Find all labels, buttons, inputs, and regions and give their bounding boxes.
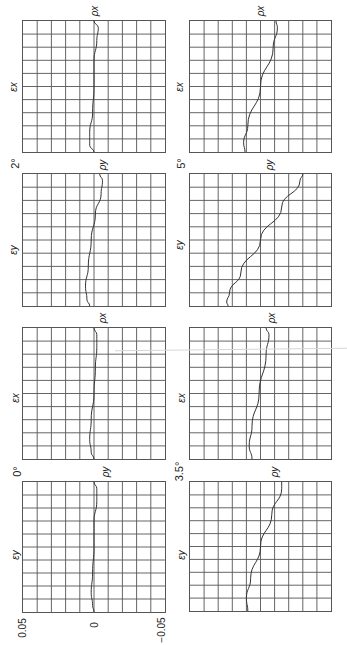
plot-0deg-x	[23, 328, 165, 459]
angle-label-5deg: 5°	[176, 158, 187, 169]
panel-5deg-x	[189, 20, 332, 153]
panel-3.5deg-y	[189, 481, 332, 612]
panel-2deg-x	[22, 20, 166, 153]
end-label: ρx	[90, 6, 100, 17]
end-label: ρy	[101, 467, 111, 478]
plot-5deg-x	[190, 21, 331, 152]
strain-label: εx	[177, 393, 187, 402]
strain-label: εy	[177, 550, 187, 559]
end-label: ρy	[270, 467, 280, 478]
plot-3.5deg-y	[190, 482, 331, 611]
strain-label: εx	[11, 393, 21, 402]
strain-label: εx	[9, 82, 19, 91]
strain-label: εx	[175, 82, 185, 91]
strain-label: εy	[175, 240, 185, 249]
angle-label-2deg: 2°	[10, 158, 21, 169]
panel-0deg-x	[22, 327, 166, 460]
plot-0deg-y	[23, 482, 165, 612]
tick-label-pos: 0.05	[18, 618, 28, 637]
end-label: ρx	[98, 313, 108, 324]
plot-2deg-y	[23, 174, 165, 306]
tick-label-zero: 0	[90, 622, 100, 628]
panel-2deg-y	[22, 173, 166, 307]
angle-label-3.5deg: 3.5°	[174, 462, 185, 482]
end-label: ρx	[256, 6, 266, 17]
end-label: ρx	[267, 313, 277, 324]
panel-5deg-y	[189, 173, 332, 307]
angle-label-0deg: 0°	[12, 466, 23, 477]
plot-5deg-y	[190, 174, 331, 306]
strain-label: εy	[11, 550, 21, 559]
end-label: ρy	[265, 160, 275, 171]
strain-label: εy	[9, 245, 19, 254]
panel-3.5deg-x	[189, 327, 332, 460]
plot-2deg-x	[23, 21, 165, 152]
tick-label-neg: −0.05	[157, 617, 167, 642]
end-label: ρy	[98, 160, 108, 171]
panel-0deg-y	[22, 481, 166, 613]
